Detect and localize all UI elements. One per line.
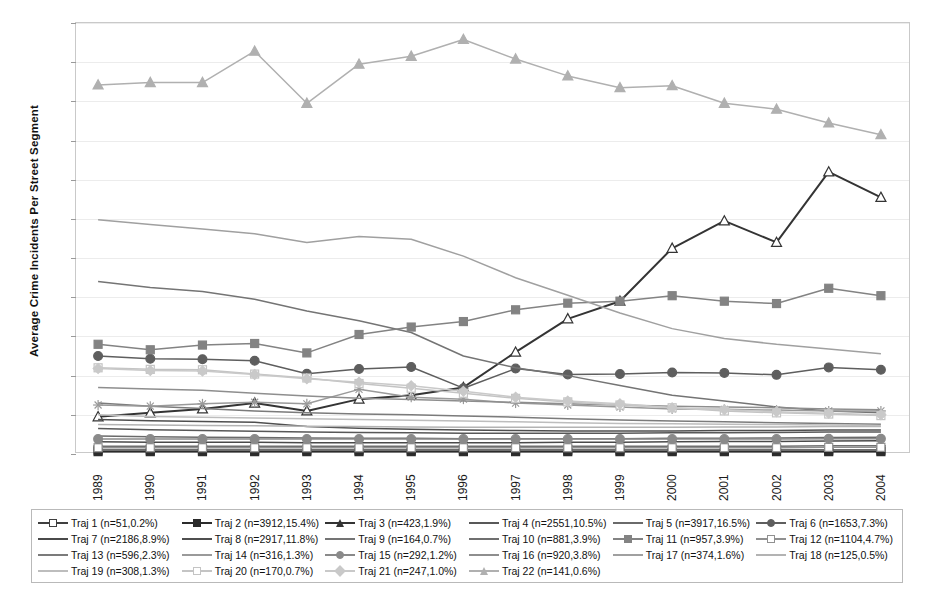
x-tick-label: 1991	[195, 459, 209, 501]
legend-item[interactable]: Traj 1 (n=51,0.2%)	[38, 515, 180, 531]
x-tick-label: 1989	[91, 459, 105, 501]
legend-item[interactable]: Traj 22 (n=141,0.6%)	[469, 563, 611, 579]
legend-label: Traj 22 (n=141,0.6%)	[502, 563, 601, 579]
data-point-marker	[824, 167, 834, 176]
data-point-marker	[616, 370, 625, 379]
data-point-marker	[824, 363, 833, 372]
legend-item[interactable]: Traj 5 (n=3917,16.5%)	[613, 515, 755, 531]
series-traj-17	[98, 220, 881, 354]
legend-item[interactable]: Traj 14 (n=316,1.3%)	[182, 547, 324, 563]
legend-label: Traj 10 (n=881,3.9%)	[502, 531, 601, 547]
legend-item[interactable]: Traj 10 (n=881,3.9%)	[469, 531, 611, 547]
data-point-marker	[773, 300, 781, 308]
data-point-marker	[877, 292, 885, 300]
data-point-marker	[720, 368, 729, 377]
legend-item[interactable]: Traj 16 (n=920,3.8%)	[469, 547, 611, 563]
data-point-marker	[511, 347, 521, 356]
legend-item[interactable]: Traj 9 (n=164,0.7%)	[325, 531, 467, 547]
legend-item[interactable]: Traj 19 (n=308,1.3%)	[38, 563, 180, 579]
series-line	[98, 387, 881, 409]
data-point-marker	[250, 397, 260, 407]
legend-label: Traj 11 (n=957,3.9%)	[646, 531, 744, 547]
legend-swatch-icon	[182, 533, 212, 545]
legend-item[interactable]: Traj 15 (n=292,1.2%)	[325, 547, 467, 563]
legend-swatch-icon	[613, 517, 643, 529]
legend-label: Traj 19 (n=308,1.3%)	[71, 563, 170, 579]
legend-swatch-icon	[38, 533, 68, 545]
legend-marker-icon	[767, 519, 775, 527]
legend-label: Traj 4 (n=2551,10.5%)	[502, 515, 606, 531]
data-point-marker	[877, 365, 886, 374]
legend-item[interactable]: Traj 7 (n=2186,8.9%)	[38, 531, 180, 547]
series-layer	[76, 23, 911, 454]
series-line	[98, 172, 881, 417]
data-point-marker	[668, 292, 676, 300]
legend-swatch-icon	[38, 565, 68, 577]
legend-item[interactable]: Traj 20 (n=170,0.7%)	[182, 563, 324, 579]
x-tick-label: 2003	[822, 459, 836, 501]
data-point-marker	[146, 435, 155, 444]
legend-item[interactable]: Traj 11 (n=957,3.9%)	[613, 531, 755, 547]
series-traj-5	[98, 436, 881, 439]
legend-swatch-icon	[38, 549, 68, 561]
series-line	[98, 39, 881, 134]
legend-item[interactable]: Traj 12 (n=1104,4.7%)	[756, 531, 898, 547]
legend-item[interactable]: Traj 4 (n=2551,10.5%)	[469, 515, 611, 531]
data-point-marker	[616, 444, 624, 452]
legend-item[interactable]: Traj 17 (n=374,1.6%)	[613, 547, 755, 563]
series-traj-7	[98, 441, 881, 443]
y-axis-title: Average Crime Incidents Per Street Segme…	[28, 1, 40, 461]
data-point-marker	[668, 368, 677, 377]
legend-label: Traj 20 (n=170,0.7%)	[215, 563, 314, 579]
legend-label: Traj 1 (n=51,0.2%)	[71, 515, 158, 531]
legend-label: Traj 6 (n=1653,7.3%)	[789, 515, 888, 531]
legend-marker-icon	[767, 535, 775, 543]
data-point-marker	[303, 444, 311, 452]
data-point-marker	[616, 435, 625, 444]
data-point-marker	[459, 318, 467, 326]
data-point-marker	[564, 444, 572, 452]
legend-swatch-icon	[469, 533, 499, 545]
legend-label: Traj 3 (n=423,1.9%)	[358, 515, 451, 531]
series-line	[98, 436, 881, 439]
legend-item[interactable]: Traj 3 (n=423,1.9%)	[325, 515, 467, 531]
series-traj-21	[93, 364, 886, 420]
data-point-marker	[667, 243, 677, 252]
legend-swatch-icon	[325, 533, 355, 545]
data-point-marker	[355, 444, 363, 452]
legend-item[interactable]: Traj 18 (n=125,0.5%)	[756, 547, 898, 563]
legend-item[interactable]: Traj 21 (n=247,1.0%)	[325, 563, 467, 579]
data-point-marker	[251, 340, 259, 348]
data-point-marker	[512, 444, 520, 452]
data-point-marker	[407, 363, 416, 372]
legend-swatch-icon	[613, 533, 643, 545]
legend-label: Traj 7 (n=2186,8.9%)	[71, 531, 170, 547]
y-tick-mark	[71, 454, 76, 455]
x-tick-label: 2001	[717, 459, 731, 501]
x-tick-label: 1990	[143, 459, 157, 501]
data-point-marker	[720, 297, 728, 305]
data-point-marker	[94, 435, 103, 444]
legend-label: Traj 18 (n=125,0.5%)	[789, 547, 888, 563]
legend-grid: Traj 1 (n=51,0.2%)Traj 2 (n=3912,15.4%)T…	[38, 515, 898, 579]
data-point-marker	[355, 435, 364, 444]
series-traj-16	[98, 387, 881, 409]
x-tick-label: 2002	[770, 459, 784, 501]
x-tick-label: 1994	[352, 459, 366, 501]
data-point-marker	[407, 435, 416, 444]
series-traj-2	[94, 448, 885, 456]
legend-marker-icon	[480, 567, 488, 575]
legend-item[interactable]: Traj 8 (n=2917,11.8%)	[182, 531, 324, 547]
x-tick-label: 1993	[300, 459, 314, 501]
data-point-marker	[407, 444, 415, 452]
legend-item[interactable]: Traj 2 (n=3912,15.4%)	[182, 515, 324, 531]
data-point-marker	[773, 444, 781, 452]
legend-item[interactable]: Traj 6 (n=1653,7.3%)	[756, 515, 898, 531]
legend-marker-icon	[480, 538, 489, 540]
x-tick-label: 1996	[456, 459, 470, 501]
legend-swatch-icon	[325, 517, 355, 529]
series-line	[98, 441, 881, 443]
legend-marker-icon	[49, 519, 57, 527]
legend-item[interactable]: Traj 13 (n=596,2.3%)	[38, 547, 180, 563]
data-point-marker	[719, 216, 729, 225]
